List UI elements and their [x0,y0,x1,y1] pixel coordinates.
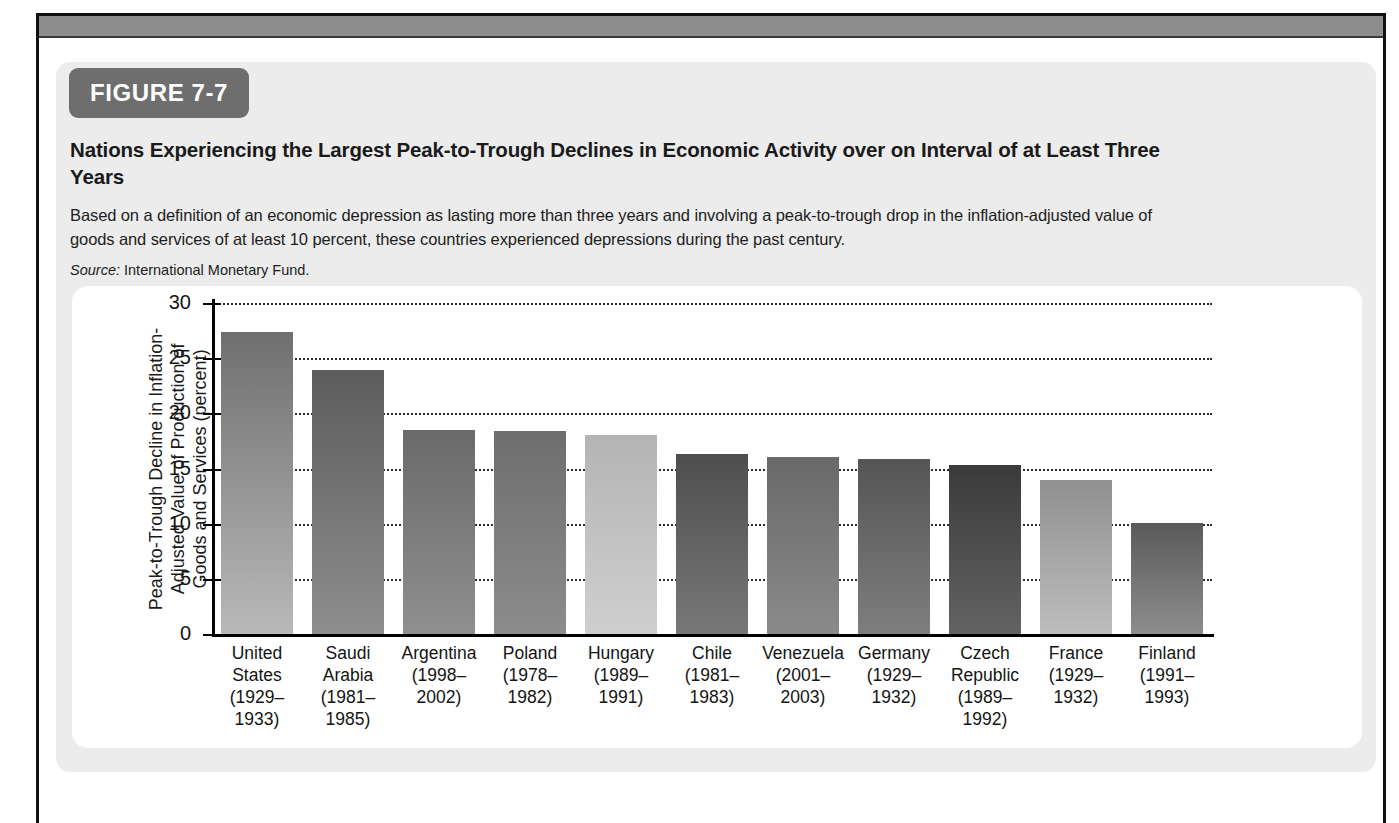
x-axis-label: Finland(1991–1993) [1122,642,1212,730]
x-axis-label-line: Chile [667,642,757,664]
y-axis-tick-label: 10 [169,512,191,535]
bar [767,457,839,634]
bar-slot [212,303,302,634]
x-axis-label-line: France [1031,642,1121,664]
x-axis-label-line: Poland [485,642,575,664]
x-axis-label-line: (1989– [940,686,1030,708]
bar-slot [849,303,939,634]
x-axis-label-line: Germany [849,642,939,664]
bar-series [212,303,1212,634]
x-axis-label: Poland(1978–1982) [485,642,575,730]
x-axis-label-line: Argentina [394,642,484,664]
x-axis-label: CzechRepublic(1989–1992) [940,642,1030,730]
bar [221,332,293,634]
source-value: International Monetary Fund. [124,262,309,278]
x-axis-label-line: 1983) [667,686,757,708]
x-axis-label-line: 1932) [849,686,939,708]
x-axis-label-line: 1982) [485,686,575,708]
x-axis-label-line: Republic [940,664,1030,686]
x-axis-line [212,634,1214,637]
y-axis-tick-label: 30 [169,291,191,314]
x-axis-label: Germany(1929–1932) [849,642,939,730]
figure-title: Nations Experiencing the Largest Peak-to… [70,136,1210,190]
bar [403,430,475,634]
x-axis-label-line: Venezuela [758,642,848,664]
x-axis-label-line: (1929– [849,664,939,686]
x-axis-label: Argentina(1998–2002) [394,642,484,730]
bar [585,435,657,634]
y-axis-tick-label: 15 [169,457,191,480]
x-axis-label-line: Arabia [303,664,393,686]
bar-slot [758,303,848,634]
bar-slot [1122,303,1212,634]
bar-slot [576,303,666,634]
x-axis-label-line: (1978– [485,664,575,686]
y-axis-tick-label: 20 [169,401,191,424]
bar [949,465,1021,634]
bar [858,459,930,634]
x-axis-label-line: (1929– [1031,664,1121,686]
x-axis-label-line: Finland [1122,642,1212,664]
x-axis-label-line: 1991) [576,686,666,708]
page: FIGURE 7-7 Nations Experiencing the Larg… [0,0,1399,823]
x-axis-label-line: 2003) [758,686,848,708]
x-axis-label-line: 1932) [1031,686,1121,708]
bar [1040,480,1112,634]
x-axis-labels: UnitedStates(1929–1933)SaudiArabia(1981–… [212,642,1212,730]
x-axis-label-line: 1985) [303,708,393,730]
figure-number-badge: FIGURE 7-7 [69,68,249,118]
bar [676,454,748,634]
x-axis-label: SaudiArabia(1981–1985) [303,642,393,730]
y-axis-tick: 0 [203,634,221,636]
x-axis-label-line: (2001– [758,664,848,686]
x-axis-label-line: United [212,642,302,664]
x-axis-label: Chile(1981–1983) [667,642,757,730]
x-axis-label: Venezuela(2001–2003) [758,642,848,730]
source-label: Source: [70,262,120,278]
bar-slot [485,303,575,634]
figure-source: Source: International Monetary Fund. [70,262,309,278]
bar-slot [303,303,393,634]
x-axis-label-line: 1933) [212,708,302,730]
page-top-bar [39,16,1383,38]
chart-panel: Peak-to-Trough Decline in Inflation-Adju… [72,286,1362,748]
x-axis-label-line: 2002) [394,686,484,708]
bar-slot [1031,303,1121,634]
x-axis-label-line: Czech [940,642,1030,664]
x-axis-label-line: 1993) [1122,686,1212,708]
y-axis-tick-label: 25 [169,346,191,369]
x-axis-label: UnitedStates(1929–1933) [212,642,302,730]
plot-wrapper: Peak-to-Trough Decline in Inflation-Adju… [72,286,1362,748]
x-axis-label: France(1929–1932) [1031,642,1121,730]
figure-number-label: FIGURE 7-7 [90,79,228,107]
x-axis-label-line: Saudi [303,642,393,664]
x-axis-label-line: (1991– [1122,664,1212,686]
x-axis-label-line: 1992) [940,708,1030,730]
x-axis-label-line: (1998– [394,664,484,686]
y-axis-tick-label: 5 [180,567,191,590]
bar [494,431,566,634]
x-axis-label-line: Hungary [576,642,666,664]
x-axis-label-line: States [212,664,302,686]
y-axis-label-line: Peak-to-Trough Decline in Inflation- [146,294,168,644]
figure-description: Based on a definition of an economic dep… [70,204,1200,252]
x-axis-label: Hungary(1989–1991) [576,642,666,730]
bar-slot [667,303,757,634]
x-axis-label-line: (1981– [303,686,393,708]
bar [312,370,384,634]
x-axis-label-line: (1929– [212,686,302,708]
x-axis-label-line: (1989– [576,664,666,686]
bar-slot [940,303,1030,634]
y-axis-tick-label: 0 [180,622,191,645]
x-axis-label-line: (1981– [667,664,757,686]
bar-slot [394,303,484,634]
bar [1131,523,1203,634]
